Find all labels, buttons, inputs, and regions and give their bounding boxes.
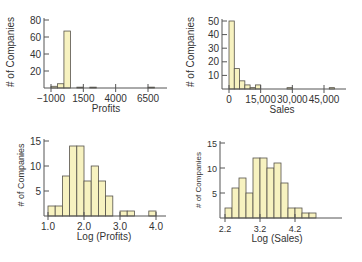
histogram-bar	[245, 85, 250, 89]
histogram-bar	[253, 158, 260, 218]
y-tick-label: 30	[208, 43, 220, 54]
histogram-profits: 20406080−1000150040006500Profits# of Com…	[5, 15, 167, 115]
histogram-bar	[55, 206, 62, 216]
y-tick-label: 10	[30, 161, 42, 172]
histogram-log-profits: 510151.02.03.04.0Log (Profits)# of Compa…	[16, 136, 166, 243]
histogram-bar	[120, 211, 127, 216]
histogram-bar	[229, 21, 234, 89]
x-axis-title: Log (Sales)	[251, 233, 302, 244]
histogram-bar	[225, 208, 232, 218]
x-tick-label: 2.2	[219, 224, 232, 234]
y-tick-label: 5	[35, 186, 41, 197]
x-tick-label: 6500	[137, 93, 160, 104]
y-tick-label: 15	[207, 139, 217, 149]
histogram-bar	[48, 206, 55, 216]
x-tick-label: 1.0	[41, 221, 55, 232]
y-axis-title: # of Companies	[5, 17, 16, 87]
x-axis-title: Sales	[269, 104, 294, 115]
histogram-bar	[62, 176, 69, 216]
histogram-bar	[267, 168, 274, 218]
y-tick-label: 5	[212, 189, 217, 199]
y-tick-label: 10	[207, 164, 217, 174]
histogram-bar	[281, 183, 288, 218]
histogram-bar	[127, 211, 134, 216]
y-tick-label: 40	[208, 29, 220, 40]
histogram-bar	[302, 213, 309, 218]
histogram-bar	[84, 181, 91, 216]
x-tick-label: 45,000	[309, 94, 340, 105]
x-tick-label: 0	[226, 94, 232, 105]
y-axis-title: # of Companies	[194, 152, 203, 208]
histogram-bar	[149, 211, 156, 216]
histogram-bar	[57, 84, 63, 88]
x-axis-title: Profits	[92, 103, 120, 114]
y-tick-label: 10	[208, 70, 220, 81]
y-tick-label: 15	[30, 136, 42, 147]
y-tick-label: 20	[30, 66, 42, 77]
histogram-bar	[239, 178, 246, 218]
histogram-bar	[260, 158, 267, 218]
histogram-bar	[295, 208, 302, 218]
histogram-log-sales: 510152.23.24.2Log (Sales)# of Companies	[194, 139, 342, 245]
histogram-bar	[70, 146, 77, 216]
y-tick-label: 80	[30, 15, 42, 26]
histogram-bar	[234, 69, 239, 89]
histogram-bar	[91, 166, 98, 216]
y-axis-title: # of Companies	[185, 17, 196, 87]
y-tick-label: 20	[208, 56, 220, 67]
x-axis-title: Log (Profits)	[77, 231, 131, 242]
x-tick-label: 4.0	[149, 221, 163, 232]
histogram-bar	[64, 31, 70, 88]
histogram-bar	[232, 188, 239, 218]
y-axis-title: # of Companies	[16, 143, 26, 207]
histogram-sales: 1020304050015,00030,00045,000Sales# of C…	[185, 16, 346, 116]
histogram-bar	[255, 85, 260, 89]
y-tick-label: 60	[30, 32, 42, 43]
y-tick-label: 50	[208, 16, 220, 27]
y-tick-label: 40	[30, 49, 42, 60]
histogram-bar	[240, 81, 245, 89]
histogram-bar	[309, 213, 316, 218]
histogram-bar	[106, 196, 113, 216]
histogram-bar	[77, 146, 84, 216]
x-tick-label: −1000	[37, 93, 66, 104]
histogram-grid: 20406080−1000150040006500Profits# of Com…	[0, 0, 362, 262]
histogram-bar	[246, 193, 253, 218]
histogram-bar	[288, 208, 295, 218]
histogram-bar	[98, 181, 105, 216]
histogram-bar	[274, 163, 281, 218]
